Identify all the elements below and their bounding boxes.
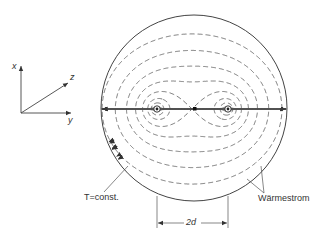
heat-flow-arrow (109, 140, 114, 142)
isotherm-label: T=const. (84, 193, 119, 202)
heat-flow-leader-line-1 (247, 179, 264, 193)
x-axis-label: x (12, 62, 17, 71)
z-axis-arrow (21, 83, 68, 113)
coordinate-axes (21, 66, 71, 113)
heat-flow-arrow (118, 156, 123, 159)
heat-flow-arrow (118, 156, 123, 159)
z-axis-label: z (70, 73, 75, 82)
y-axis-label: y (68, 116, 73, 125)
center-point (193, 107, 197, 111)
heat-source-left (154, 106, 160, 112)
heat-source-right (225, 106, 231, 112)
heat-flow-label: Wärmestrom (258, 194, 310, 203)
isotherm-leader-line (104, 166, 128, 192)
diagram-canvas (0, 0, 329, 239)
dimension-label: 2d (186, 218, 196, 227)
